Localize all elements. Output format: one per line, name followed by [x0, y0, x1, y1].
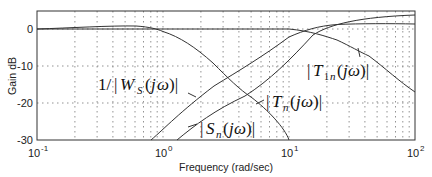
ytick-minus-30: -30 — [17, 134, 33, 146]
svg-text:10: 10 — [407, 147, 419, 159]
bode-chart: 1/ | W S ( j ω )| | T n ( j ω )| | S n (… — [0, 0, 432, 177]
svg-text:W: W — [120, 75, 136, 94]
svg-text:j: j — [227, 119, 234, 138]
svg-text:|: | — [307, 61, 310, 80]
svg-text:-1: -1 — [41, 144, 49, 153]
svg-text:ω: ω — [348, 61, 360, 80]
svg-text:S: S — [137, 84, 143, 96]
annotation-sn: | S n ( j ω )| — [200, 119, 255, 140]
xtick-1e0: 10 0 — [155, 144, 173, 159]
svg-text:|: | — [266, 92, 269, 111]
svg-text:10: 10 — [155, 147, 167, 159]
svg-text:ω: ω — [157, 75, 169, 94]
svg-text:j: j — [341, 61, 348, 80]
svg-text:S: S — [206, 119, 215, 138]
svg-text:1/: 1/ — [98, 75, 112, 94]
svg-text:10: 10 — [28, 147, 40, 159]
svg-text:n: n — [216, 128, 222, 140]
annotation-t1n: | T 1 n ( j ω )| — [307, 61, 369, 82]
svg-text:|: | — [114, 75, 117, 94]
xtick-1e2: 10 2 — [407, 144, 425, 159]
xtick-1e1: 10 1 — [281, 144, 299, 159]
svg-text:0: 0 — [168, 144, 173, 153]
svg-text:)|: )| — [246, 119, 255, 138]
svg-text:10: 10 — [281, 147, 293, 159]
svg-text:)|: )| — [360, 61, 369, 80]
annotation-tn: | T n ( j ω )| — [266, 92, 322, 113]
svg-text:1: 1 — [294, 144, 299, 153]
svg-text:ω: ω — [234, 119, 246, 138]
svg-text:j: j — [294, 92, 301, 111]
svg-text:T: T — [313, 61, 324, 80]
svg-text:n: n — [330, 70, 336, 82]
svg-text:)|: )| — [169, 75, 178, 94]
svg-text:1: 1 — [324, 71, 329, 82]
leader-t1n — [358, 48, 360, 57]
svg-text:2: 2 — [420, 144, 425, 153]
ytick-0: 0 — [27, 23, 33, 35]
svg-text:j: j — [149, 75, 156, 94]
svg-text:)|: )| — [313, 92, 322, 111]
svg-text:|: | — [200, 119, 203, 138]
svg-text:ω: ω — [301, 92, 313, 111]
ytick-minus-20: -20 — [17, 97, 33, 109]
svg-text:T: T — [272, 92, 283, 111]
ytick-minus-10: -10 — [17, 60, 33, 72]
annotation-inv-ws: 1/ | W S ( j ω )| — [98, 75, 178, 96]
x-axis-label: Frequency (rad/sec) — [179, 161, 273, 173]
leader-inv-ws — [188, 93, 196, 97]
y-axis-label: Gain dB — [6, 57, 18, 95]
xtick-1e-1: 10 -1 — [28, 144, 49, 159]
svg-text:n: n — [283, 101, 289, 113]
